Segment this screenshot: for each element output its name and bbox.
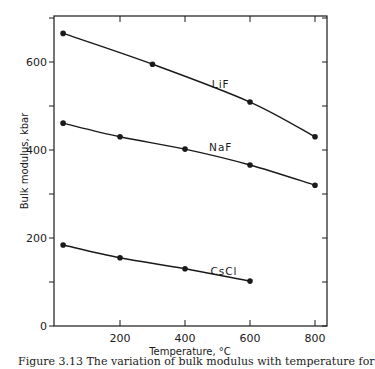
series-cscl: CsCl [60, 242, 252, 284]
data-point [60, 242, 66, 248]
data-point [60, 120, 66, 126]
data-point [182, 146, 188, 152]
data-point [150, 61, 156, 67]
data-point [312, 182, 318, 188]
series-label: CsCl [210, 265, 237, 277]
series-label: NaF [209, 141, 232, 153]
data-point [182, 266, 188, 272]
data-point [60, 31, 66, 37]
axis-ticks [49, 16, 327, 326]
data-point [247, 162, 253, 168]
y-tick-label: 200 [26, 232, 47, 245]
x-tick-label: 800 [305, 332, 326, 345]
data-point [312, 134, 318, 140]
axis-labels: 0200400600200400600800Temperature, °CBul… [19, 56, 326, 357]
series-naf: NaF [60, 120, 317, 188]
series-line [63, 33, 315, 136]
x-tick-label: 400 [175, 332, 196, 345]
data-series: LiFNaFCsCl [60, 31, 317, 284]
y-tick-label: 600 [26, 56, 47, 69]
x-tick-label: 200 [110, 332, 131, 345]
data-point [117, 134, 123, 140]
plot-border [54, 16, 327, 326]
plot-frame [54, 16, 327, 326]
data-point [117, 255, 123, 261]
data-point [247, 278, 253, 284]
series-label: LiF [212, 78, 230, 90]
x-tick-label: 600 [240, 332, 261, 345]
y-tick-label: 0 [40, 320, 47, 333]
data-point [247, 99, 253, 105]
series-line [63, 123, 315, 185]
series-lif: LiF [60, 31, 317, 140]
figure-caption: Figure 3.13 The variation of bulk modulu… [18, 355, 375, 368]
y-axis-title: Bulk modulus, kbar [19, 112, 30, 209]
